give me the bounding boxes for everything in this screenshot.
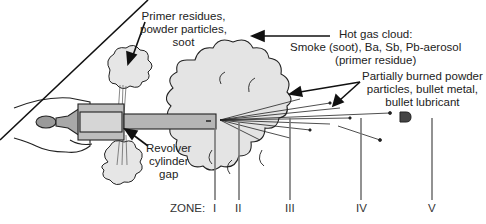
label-line: Partially burned powder	[362, 70, 483, 83]
label-cylinder-gap: Revolver cylinder gap	[146, 142, 191, 181]
label-partially-burned: Partially burned powder particles, bulle…	[362, 70, 483, 109]
zone-v-label: V	[428, 202, 436, 214]
label-line: cylinder	[146, 155, 191, 168]
zone-i-label: I	[213, 202, 216, 214]
bullet	[400, 112, 411, 122]
zone-iii-label: III	[285, 202, 295, 214]
label-line: gap	[146, 168, 191, 181]
label-primer-residues: Primer residues, powder particles, soot	[140, 10, 227, 49]
zone-ii-label: II	[235, 202, 241, 214]
label-line: soot	[140, 36, 227, 49]
diagram-stage: Primer residues, powder particles, soot …	[0, 0, 486, 224]
label-hot-gas-cloud: Hot gas cloud: Smoke (soot), Ba, Sb, Pb-…	[290, 28, 461, 67]
label-line: powder particles,	[140, 23, 227, 36]
label-line: Hot gas cloud:	[290, 28, 461, 41]
label-line: Primer residues,	[140, 10, 227, 23]
label-line: particles, bullet metal,	[362, 83, 483, 96]
label-line: Revolver	[146, 142, 191, 155]
label-line: bullet lubricant	[362, 96, 483, 109]
zone-iv-label: IV	[356, 202, 367, 214]
upper-cylinder-gap-cloud	[108, 45, 152, 88]
zone-heading: ZONE:	[170, 202, 205, 214]
label-line: Smoke (soot), Ba, Sb, Pb-aerosol	[290, 41, 461, 54]
label-line: (primer residue)	[290, 54, 461, 67]
